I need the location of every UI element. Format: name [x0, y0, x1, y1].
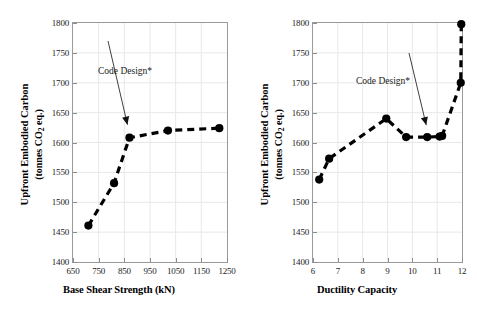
- y-tick-mark: [73, 172, 77, 173]
- y-tick-label: 1500: [275, 198, 309, 207]
- y-tick-mark: [313, 172, 317, 173]
- y-tick-mark: [73, 143, 77, 144]
- y-tick-label: 1800: [275, 19, 309, 28]
- x-tick-mark: [99, 258, 100, 262]
- y-tick-mark: [73, 202, 77, 203]
- plot-frame-left: [72, 22, 228, 263]
- data-point-marker: [423, 133, 431, 141]
- y-tick-label: 1550: [275, 168, 309, 177]
- x-tick-mark: [150, 258, 151, 262]
- annotation-code-design-left: Code Design*: [98, 66, 152, 76]
- y-tick-mark: [73, 232, 77, 233]
- y-axis-title-left-line1: Upfront Embodied Carbon: [19, 84, 30, 206]
- figure-container: Upfront Embodied Carbon (tonnes CO2 eq.)…: [0, 0, 477, 309]
- y-tick-mark: [313, 113, 317, 114]
- y-tick-mark: [313, 232, 317, 233]
- y-tick-mark: [73, 113, 77, 114]
- x-tick-mark: [462, 258, 463, 262]
- data-point-marker: [402, 133, 410, 141]
- y-tick-mark: [313, 83, 317, 84]
- data-point-marker: [164, 126, 172, 134]
- y-tick-label: 1750: [275, 49, 309, 58]
- annotation-arrow-line: [409, 53, 426, 125]
- y-tick-label: 1650: [275, 109, 309, 118]
- y-tick-mark: [313, 202, 317, 203]
- y-tick-label: 1700: [35, 79, 69, 88]
- x-tick-mark: [124, 258, 125, 262]
- y-tick-label: 1750: [35, 49, 69, 58]
- annotation-code-design-right: Code Design*: [356, 76, 410, 86]
- y-tick-label: 1450: [35, 228, 69, 237]
- y-tick-mark: [313, 53, 317, 54]
- x-tick-mark: [176, 258, 177, 262]
- x-axis-title-right: Ductility Capacity: [242, 284, 472, 295]
- data-point-marker: [110, 179, 118, 187]
- chart-panel-ductility-capacity: Upfront Embodied Carbon (tonnes CO2 eq.)…: [238, 0, 476, 309]
- y-tick-label: 1800: [35, 19, 69, 28]
- x-tick-mark: [338, 258, 339, 262]
- y-tick-mark: [73, 83, 77, 84]
- x-tick-label: 12: [442, 267, 477, 276]
- data-point-marker: [315, 175, 323, 183]
- x-tick-mark: [412, 258, 413, 262]
- annotation-arrow-head: [421, 117, 430, 126]
- data-point-marker: [382, 115, 390, 123]
- plot-area-left: [73, 23, 227, 262]
- data-point-marker: [438, 132, 446, 140]
- chart-panel-base-shear-strength: Upfront Embodied Carbon (tonnes CO2 eq.)…: [0, 0, 238, 309]
- x-tick-mark: [73, 258, 74, 262]
- x-tick-mark: [363, 258, 364, 262]
- data-series-line: [319, 24, 461, 179]
- y-tick-label: 1600: [275, 139, 309, 148]
- data-point-marker: [125, 134, 133, 142]
- y-tick-label: 1600: [35, 139, 69, 148]
- x-tick-mark: [313, 258, 314, 262]
- y-tick-label: 1650: [35, 109, 69, 118]
- data-point-marker: [84, 221, 92, 229]
- data-point-marker: [325, 155, 333, 163]
- y-tick-label: 1700: [275, 79, 309, 88]
- y-tick-label: 1500: [35, 198, 69, 207]
- y-tick-mark: [73, 262, 77, 263]
- y-tick-label: 1400: [275, 258, 309, 267]
- y-tick-label: 1400: [35, 258, 69, 267]
- y-tick-mark: [313, 23, 317, 24]
- x-axis-title-left: Base Shear Strength (kN): [4, 284, 234, 295]
- y-tick-mark: [73, 23, 77, 24]
- data-point-marker: [457, 20, 465, 28]
- y-tick-mark: [73, 53, 77, 54]
- plot-area-right: [313, 23, 462, 262]
- plot-frame-right: [312, 22, 463, 263]
- data-point-marker: [457, 79, 465, 87]
- y-tick-label: 1550: [35, 168, 69, 177]
- annotation-arrow-head: [122, 116, 131, 125]
- y-axis-title-right-line1: Upfront Embodied Carbon: [259, 84, 270, 206]
- x-tick-mark: [437, 258, 438, 262]
- x-tick-mark: [227, 258, 228, 262]
- y-tick-mark: [313, 262, 317, 263]
- data-point-marker: [215, 124, 223, 132]
- x-tick-mark: [388, 258, 389, 262]
- y-tick-mark: [313, 143, 317, 144]
- x-tick-mark: [201, 258, 202, 262]
- y-tick-label: 1450: [275, 228, 309, 237]
